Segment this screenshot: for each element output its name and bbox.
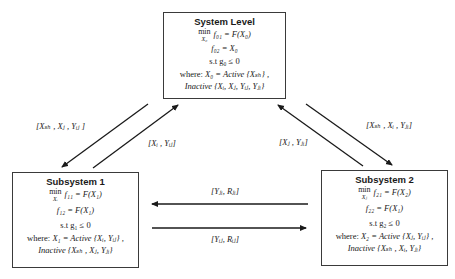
subsystem-1-constraint: s.t g₁ ≤ 0 [60, 219, 90, 232]
min-subscript: X₀ [201, 36, 207, 42]
eq2-expr: f₀₂ = X₀ [211, 43, 237, 53]
where-expr: X₁ = Active {Xᵢ, Yᵢⱼ} , [52, 233, 124, 243]
where-label: where: [27, 233, 50, 243]
where-label: where: [336, 231, 359, 241]
system-level-box: System Level min X₀ f₀₁ = F(X₀) f₀₂ = X₀… [163, 12, 286, 99]
subsystem-1-inactive: Inactive {Xₛₕ , Xⱼ, Yⱼᵢ} [38, 245, 112, 256]
edge-label-sys-to-sub2: [Xₛₕ , Xᵢ , Yⱼᵢ] [366, 120, 412, 130]
subsystem-2-eq2: f₂₂ = F(X₁) [366, 202, 403, 215]
where-expr: X₀ = Active {Xₛₕ} , [205, 69, 269, 79]
edge-label-sub2-to-sub1: [Yⱼᵢ, Rⱼᵢ] [211, 186, 239, 196]
min-operator: min X₀ [198, 28, 210, 42]
system-constraint: s.t g₀ ≤ 0 [209, 55, 239, 68]
arrow-sub1-to-sys [93, 105, 178, 168]
edge-label-sys-to-sub1: [Xₛₕ , Xⱼ , Yᵢⱼ ] [36, 121, 85, 131]
subsystem-1-eq2: f₁₂ = F(X₁) [57, 204, 94, 217]
objective-expr: f₁₁ = F(X₁) [65, 188, 102, 201]
subsystem-2-box: Subsystem 2 min Xⱼ f₂₁ = F(X₂) f₂₂ = F(X… [321, 170, 448, 266]
min-label: min [49, 188, 61, 196]
where-expr: X₂ = Active {Xⱼ, Yᵢⱼ} , [361, 231, 433, 241]
subsystem-1-box: Subsystem 1 min Xᵢ f₁₁ = F(X₁) f₁₂ = F(X… [12, 172, 139, 268]
objective-expr: f₂₁ = F(X₂) [374, 186, 411, 199]
where-label: where: [180, 69, 203, 79]
subsystem-2-constraint: s.t g₂ ≤ 0 [369, 217, 399, 230]
subsystem-2-objective: min Xⱼ f₂₁ = F(X₂) [358, 186, 411, 200]
system-inactive: Inactive {Xᵢ, Xⱼ, Yᵢⱼ, Yⱼᵢ} [185, 81, 265, 91]
min-operator: min Xᵢ [49, 188, 61, 202]
min-operator: min Xⱼ [358, 186, 370, 200]
eq2-expr: f₁₂ = F(X₁) [57, 205, 94, 215]
min-subscript: Xⱼ [362, 194, 367, 200]
arrow-sys-to-sub1 [62, 104, 148, 167]
subsystem-1-objective: min Xᵢ f₁₁ = F(X₁) [49, 188, 102, 202]
subsystem-2-inactive: Inactive {Xₛₕ , Xᵢ, Yⱼᵢ} [348, 243, 422, 254]
subsystem-1-where: where: X₁ = Active {Xᵢ, Yᵢⱼ} , [27, 232, 124, 245]
subsystem-2-where: where: X₂ = Active {Xⱼ, Yᵢⱼ} , [336, 230, 434, 243]
eq2-expr: f₂₂ = F(X₁) [366, 203, 403, 213]
system-objective: min X₀ f₀₁ = F(X₀) [198, 28, 251, 42]
edge-label-sub2-to-sys: [Xⱼ , Yⱼᵢ] [279, 137, 308, 147]
min-label: min [198, 28, 210, 36]
objective-expr: f₀₁ = F(X₀) [214, 28, 251, 41]
min-label: min [358, 186, 370, 194]
system-where: where: X₀ = Active {Xₛₕ} , [180, 68, 269, 81]
min-subscript: Xᵢ [53, 196, 58, 202]
diagram-canvas: System Level min X₀ f₀₁ = F(X₀) f₀₂ = X₀… [0, 0, 455, 279]
edge-label-sub1-to-sub2: [Yᵢⱼ, Rᵢⱼ] [211, 234, 239, 244]
system-eq2: f₀₂ = X₀ [211, 42, 237, 55]
edge-label-sub1-to-sys: [Xᵢ , Yᵢⱼ] [148, 138, 176, 148]
